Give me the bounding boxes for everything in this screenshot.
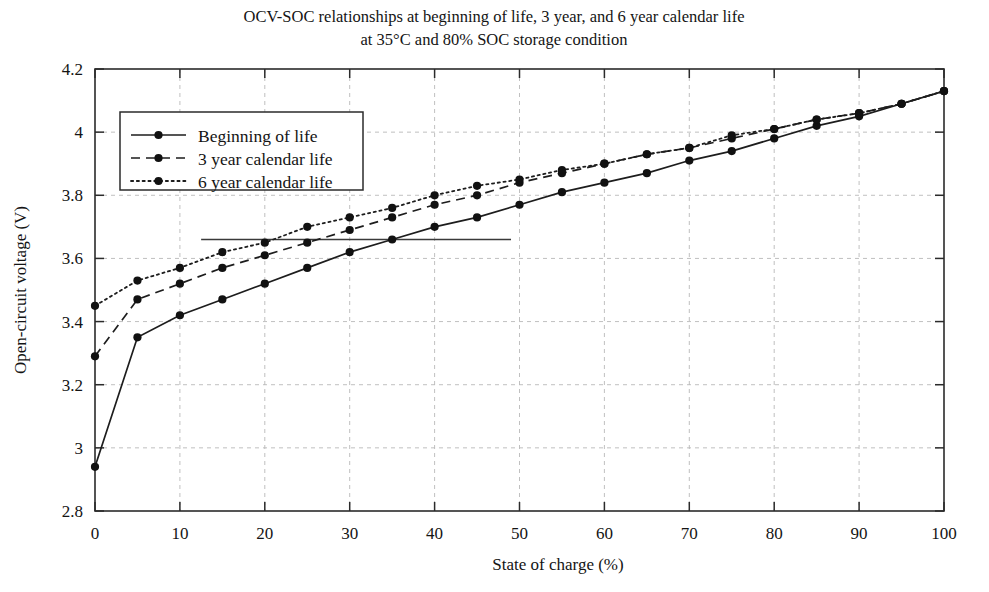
y-tick-label: 3.4 bbox=[62, 313, 84, 332]
y-tick-label: 3 bbox=[75, 439, 84, 458]
data-point-marker bbox=[685, 156, 693, 164]
data-point-marker bbox=[813, 115, 821, 123]
data-point-marker bbox=[91, 352, 99, 360]
data-point-marker bbox=[643, 169, 651, 177]
data-point-marker bbox=[643, 150, 651, 158]
data-point-marker bbox=[91, 463, 99, 471]
y-tick-label: 2.8 bbox=[62, 502, 83, 521]
data-point-marker bbox=[431, 191, 439, 199]
data-point-marker bbox=[940, 87, 948, 95]
legend-item-label: 6 year calendar life bbox=[198, 172, 333, 192]
data-point-marker bbox=[303, 239, 311, 247]
data-point-marker bbox=[770, 125, 778, 133]
data-point-marker bbox=[218, 248, 226, 256]
data-point-marker bbox=[218, 295, 226, 303]
data-point-marker bbox=[473, 213, 481, 221]
data-point-marker bbox=[855, 109, 863, 117]
x-tick-label: 30 bbox=[341, 524, 358, 543]
data-point-marker bbox=[346, 226, 354, 234]
data-point-marker bbox=[515, 175, 523, 183]
data-point-marker bbox=[346, 248, 354, 256]
data-point-marker bbox=[600, 179, 608, 187]
legend-items: Beginning of life3 year calendar life6 y… bbox=[131, 126, 333, 192]
legend[interactable]: Beginning of life3 year calendar life6 y… bbox=[120, 112, 363, 192]
data-point-marker bbox=[515, 201, 523, 209]
legend-marker-sample bbox=[154, 131, 162, 139]
data-point-marker bbox=[176, 311, 184, 319]
data-point-marker bbox=[261, 251, 269, 259]
data-point-marker bbox=[346, 213, 354, 221]
x-tick-label: 0 bbox=[91, 524, 100, 543]
x-tick-label: 90 bbox=[851, 524, 868, 543]
chart-title-line-2: at 35°C and 80% SOC storage condition bbox=[361, 30, 628, 49]
data-point-marker bbox=[473, 182, 481, 190]
data-point-marker bbox=[897, 100, 905, 108]
data-point-marker bbox=[218, 264, 226, 272]
data-point-marker bbox=[685, 144, 693, 152]
y-tick-label: 3.8 bbox=[62, 186, 83, 205]
y-axis-label: Open-circuit voltage (V) bbox=[11, 206, 30, 374]
legend-marker-sample bbox=[154, 154, 162, 162]
x-tick-label: 20 bbox=[256, 524, 273, 543]
x-tick-label: 50 bbox=[511, 524, 528, 543]
legend-item-label: Beginning of life bbox=[198, 126, 318, 146]
x-tick-label: 40 bbox=[426, 524, 443, 543]
data-point-marker bbox=[431, 223, 439, 231]
legend-item-label: 3 year calendar life bbox=[198, 149, 333, 169]
data-point-marker bbox=[558, 188, 566, 196]
figure-container: OCV-SOC relationships at beginning of li… bbox=[0, 0, 989, 592]
chart-title-line-1: OCV-SOC relationships at beginning of li… bbox=[244, 7, 745, 26]
data-point-marker bbox=[303, 264, 311, 272]
y-tick-label: 4 bbox=[75, 123, 84, 142]
y-tick-label: 3.2 bbox=[62, 376, 83, 395]
data-point-marker bbox=[303, 223, 311, 231]
data-point-marker bbox=[728, 131, 736, 139]
data-point-marker bbox=[388, 213, 396, 221]
data-point-marker bbox=[558, 166, 566, 174]
data-point-marker bbox=[770, 134, 778, 142]
data-point-marker bbox=[133, 333, 141, 341]
data-point-marker bbox=[473, 191, 481, 199]
data-point-marker bbox=[388, 235, 396, 243]
data-point-marker bbox=[431, 201, 439, 209]
data-point-marker bbox=[600, 160, 608, 168]
x-tick-label: 60 bbox=[596, 524, 613, 543]
data-point-marker bbox=[261, 280, 269, 288]
data-point-marker bbox=[91, 302, 99, 310]
legend-marker-sample bbox=[154, 177, 162, 185]
ocv-soc-chart: OCV-SOC relationships at beginning of li… bbox=[0, 0, 989, 592]
x-tick-label: 100 bbox=[931, 524, 957, 543]
data-point-marker bbox=[176, 264, 184, 272]
y-tick-label: 4.2 bbox=[62, 60, 83, 79]
data-point-marker bbox=[133, 276, 141, 284]
data-point-marker bbox=[261, 239, 269, 247]
data-point-marker bbox=[728, 147, 736, 155]
data-point-marker bbox=[176, 280, 184, 288]
x-axis-label: State of charge (%) bbox=[492, 555, 623, 574]
data-point-marker bbox=[388, 204, 396, 212]
x-tick-label: 10 bbox=[171, 524, 188, 543]
x-tick-label: 70 bbox=[681, 524, 698, 543]
y-tick-label: 3.6 bbox=[62, 249, 83, 268]
data-point-marker bbox=[133, 295, 141, 303]
x-tick-label: 80 bbox=[766, 524, 783, 543]
